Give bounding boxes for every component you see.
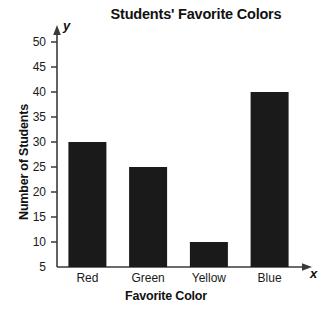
y-tick-label: 35 xyxy=(33,110,47,124)
x-axis-name-label: x xyxy=(309,266,318,281)
y-tick-label: 40 xyxy=(33,85,47,99)
y-tick-label: 45 xyxy=(33,60,47,74)
plot-area: y x 50 45 40 35 30 25 20 15 10 5 Re xyxy=(0,0,326,313)
y-axis-arrow-icon xyxy=(53,25,61,35)
y-tick-label: 20 xyxy=(33,185,47,199)
y-tick-label: 25 xyxy=(33,160,47,174)
bar-yellow xyxy=(190,242,228,267)
x-tick-label: Blue xyxy=(258,271,282,285)
x-tick-label: Green xyxy=(131,271,164,285)
x-axis-category-labels: RedGreenYellowBlue xyxy=(76,271,282,285)
bar-green xyxy=(129,167,167,267)
x-tick-label: Red xyxy=(76,271,98,285)
bar-blue xyxy=(251,92,289,267)
y-axis-name-label: y xyxy=(62,18,71,33)
x-tick-label: Yellow xyxy=(192,271,227,285)
bar-chart: Students' Favorite Colors Number of Stud… xyxy=(0,0,326,313)
y-axis-ticks: 50 45 40 35 30 25 20 15 10 5 xyxy=(33,35,57,274)
y-tick-label: 10 xyxy=(33,235,47,249)
bar-series xyxy=(68,92,288,267)
y-tick-label: 50 xyxy=(33,35,47,49)
bar-red xyxy=(68,142,106,267)
y-tick-label: 5 xyxy=(39,260,46,274)
y-tick-label: 15 xyxy=(33,210,47,224)
y-tick-label: 30 xyxy=(33,135,47,149)
